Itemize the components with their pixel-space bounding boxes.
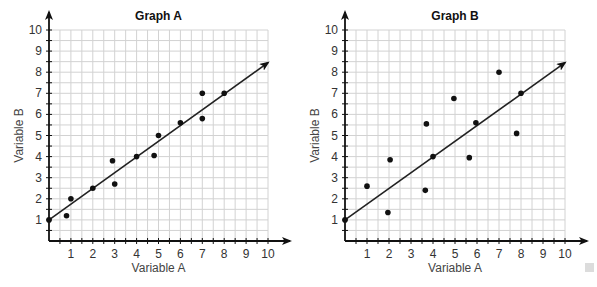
data-point [178,120,184,126]
y-tick-label: 9 [331,44,338,58]
x-tick-label: 1 [68,247,75,261]
x-tick-label: 6 [474,247,481,261]
y-tick-label: 3 [35,171,42,185]
x-tick-label: 1 [364,247,371,261]
data-point [451,96,457,102]
y-tick-label: 10 [29,23,43,37]
y-tick-label: 4 [331,150,338,164]
y-tick-label: 8 [35,65,42,79]
x-axis-title: Variable A [428,261,482,275]
data-point [473,120,479,126]
data-point [134,154,140,160]
y-tick-label: 8 [331,65,338,79]
y-tick-label: 5 [331,129,338,143]
x-tick-label: 10 [558,247,572,261]
x-tick-label: 9 [540,247,547,261]
data-point [387,157,393,163]
x-tick-label: 8 [221,247,228,261]
y-tick-label: 6 [331,107,338,121]
x-tick-label: 5 [155,247,162,261]
y-tick-label: 7 [331,86,338,100]
x-tick-label: 7 [496,247,503,261]
y-tick-label: 9 [35,44,42,58]
grid [345,30,565,241]
data-point [424,121,430,127]
data-point [496,69,502,75]
y-tick-label: 2 [35,192,42,206]
y-tick-label: 5 [35,129,42,143]
x-tick-label: 9 [243,247,250,261]
y-tick-label: 3 [331,171,338,185]
axis-ticks: 1234567891012345678910 [29,23,275,261]
data-point [518,91,524,97]
data-point [430,154,436,160]
x-tick-label: 10 [261,247,275,261]
graph-a: Graph A Variable A Variable B 1234567891… [12,9,290,275]
x-tick-label: 2 [89,247,96,261]
y-tick-label: 1 [331,213,338,227]
y-tick-label: 4 [35,150,42,164]
y-tick-label: 2 [331,192,338,206]
y-axis-title: Variable B [12,108,26,162]
data-point [110,158,116,164]
axis-ticks: 1234567891012345678910 [325,23,572,261]
data-point [467,155,473,161]
corner-marker [585,263,594,272]
x-tick-label: 3 [111,247,118,261]
data-point [514,131,520,137]
data-point [423,188,429,194]
x-tick-label: 7 [199,247,206,261]
data-point [46,217,52,223]
data-point [221,91,227,97]
y-tick-label: 10 [325,23,339,37]
data-point [200,116,206,122]
x-tick-label: 8 [518,247,525,261]
x-tick-label: 4 [133,247,140,261]
x-axis-title: Variable A [132,261,186,275]
data-point [364,183,370,189]
x-tick-label: 6 [177,247,184,261]
data-point [68,196,74,202]
y-tick-label: 7 [35,86,42,100]
data-point [90,185,96,191]
y-axis-title: Variable B [308,108,322,162]
chart-canvas: Graph A Variable A Variable B 1234567891… [0,0,597,287]
graph-b: Graph B Variable A Variable B 1234567891… [308,9,587,275]
data-point [342,217,348,223]
data-point [156,133,162,139]
data-point [151,153,157,159]
y-tick-label: 1 [35,213,42,227]
x-tick-label: 5 [452,247,459,261]
data-point [200,91,206,97]
data-point [64,213,70,219]
x-tick-label: 3 [408,247,415,261]
data-point [385,210,391,216]
x-tick-label: 4 [430,247,437,261]
x-tick-label: 2 [386,247,393,261]
chart-title: Graph A [135,9,182,23]
chart-title: Graph B [431,9,479,23]
data-point [112,181,118,187]
y-tick-label: 6 [35,107,42,121]
